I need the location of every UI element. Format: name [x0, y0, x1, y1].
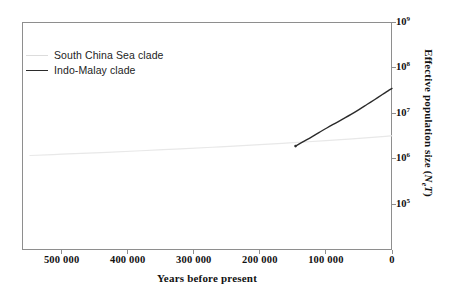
y-tick-exponent: 7 [407, 105, 411, 113]
legend-line-swatch-indo-malay [26, 70, 48, 71]
x-axis-title: Years before present [22, 272, 392, 284]
y-tick-label-8: 108 [396, 62, 410, 73]
x-tick-mark [392, 250, 393, 254]
y-tick-mark [392, 22, 396, 23]
legend-label-south-china-sea: South China Sea clade [54, 49, 164, 61]
x-tick-label-100000: 100 000 [308, 254, 344, 266]
x-tick-label-400000: 400 000 [110, 254, 146, 266]
y-title-symbol-T: T [423, 186, 435, 193]
legend-line-swatch-south-china-sea [26, 55, 48, 56]
x-tick-mark [259, 250, 260, 254]
y-tick-label-9: 109 [396, 17, 410, 28]
figure-container: South China Sea clade Indo-Malay clade 1… [0, 0, 459, 300]
legend-item-south-china-sea-clade[interactable]: South China Sea clade [26, 48, 236, 62]
x-tick-label-200000: 200 000 [242, 254, 278, 266]
y-tick-mark [392, 113, 396, 114]
y-tick-label-5: 105 [396, 199, 410, 210]
x-tick-mark [127, 250, 128, 254]
chart-legend: South China Sea clade Indo-Malay clade [26, 48, 236, 78]
y-tick-base: 10 [396, 152, 407, 163]
y-tick-label-7: 107 [396, 108, 410, 119]
y-axis-title: Effective population size (NeT) [419, 22, 439, 232]
series-line-south-china-sea-clade [30, 136, 392, 156]
legend-item-indo-malay-clade[interactable]: Indo-Malay clade [26, 63, 236, 77]
y-tick-base: 10 [396, 198, 407, 209]
y-tick-mark [392, 158, 396, 159]
y-tick-exponent: 6 [407, 151, 411, 159]
y-tick-base: 10 [396, 16, 407, 27]
x-tick-label-0: 0 [389, 254, 394, 266]
x-axis-tick-labels: 500 000400 000300 000200 000100 0000 [0, 254, 459, 270]
y-tick-exponent: 9 [407, 14, 411, 22]
y-tick-mark [392, 204, 396, 205]
x-tick-mark [61, 250, 62, 254]
y-tick-label-6: 106 [396, 153, 410, 164]
y-tick-mark [392, 67, 396, 68]
y-tick-base: 10 [396, 107, 407, 118]
y-tick-exponent: 8 [407, 60, 411, 68]
x-tick-label-500000: 500 000 [44, 254, 80, 266]
y-tick-exponent: 5 [407, 196, 411, 204]
series-start-marker-indo-malay [294, 145, 297, 148]
y-axis-title-text: Effective population size (NeT) [423, 49, 435, 197]
x-tick-label-300000: 300 000 [176, 254, 212, 266]
legend-label-indo-malay: Indo-Malay clade [54, 64, 136, 76]
x-tick-mark [325, 250, 326, 254]
x-tick-mark [193, 250, 194, 254]
y-tick-base: 10 [396, 61, 407, 72]
